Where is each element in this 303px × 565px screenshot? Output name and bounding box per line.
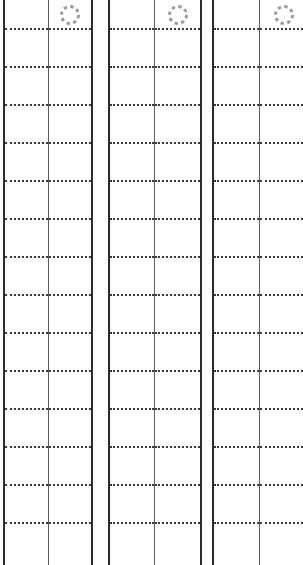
rule-line — [110, 104, 154, 106]
rule-line — [155, 256, 200, 258]
rule-line — [260, 142, 303, 144]
rule-line — [5, 332, 48, 334]
column-group-1-left-cell[interactable] — [5, 0, 49, 565]
rule-line — [49, 294, 91, 296]
rule-line — [49, 180, 91, 182]
rule-line — [214, 408, 259, 410]
rule-line — [155, 332, 200, 334]
rule-line — [260, 522, 303, 524]
rule-line — [49, 522, 91, 524]
rule-layer — [155, 0, 200, 565]
rule-line — [49, 332, 91, 334]
rule-line — [260, 408, 303, 410]
rule-line — [49, 408, 91, 410]
rule-line — [260, 256, 303, 258]
rule-line — [5, 180, 48, 182]
rule-line — [155, 180, 200, 182]
rule-layer — [214, 0, 259, 565]
rule-line — [214, 256, 259, 258]
rule-line — [49, 256, 91, 258]
column-group-3-left-cell[interactable] — [214, 0, 260, 565]
rule-line — [155, 370, 200, 372]
rule-line — [110, 256, 154, 258]
rule-line — [155, 66, 200, 68]
column-group-1 — [3, 0, 93, 565]
rule-line — [214, 294, 259, 296]
rule-line — [49, 66, 91, 68]
rule-line — [155, 28, 200, 30]
rule-line — [5, 218, 48, 220]
rule-line — [155, 142, 200, 144]
rule-line — [155, 522, 200, 524]
rule-line — [110, 294, 154, 296]
rule-line — [214, 218, 259, 220]
rule-line — [5, 522, 48, 524]
rule-line — [49, 28, 91, 30]
column-group-2-left-cell[interactable] — [110, 0, 155, 565]
rule-layer — [5, 0, 48, 565]
rule-line — [260, 332, 303, 334]
rule-line — [110, 142, 154, 144]
dashed-circle-icon — [58, 3, 82, 27]
rule-line — [110, 218, 154, 220]
column-group-3 — [212, 0, 303, 565]
rule-line — [155, 294, 200, 296]
column-group-2 — [108, 0, 202, 565]
rule-line — [155, 104, 200, 106]
rule-line — [214, 484, 259, 486]
rule-line — [110, 332, 154, 334]
rule-layer — [260, 0, 303, 565]
rule-layer — [49, 0, 91, 565]
rule-line — [110, 66, 154, 68]
rule-line — [5, 142, 48, 144]
rule-line — [260, 446, 303, 448]
rule-line — [214, 142, 259, 144]
dashed-circle-icon — [272, 3, 296, 27]
rule-line — [5, 370, 48, 372]
rule-line — [214, 28, 259, 30]
rule-line — [49, 370, 91, 372]
rule-line — [110, 180, 154, 182]
rule-line — [49, 218, 91, 220]
rule-line — [110, 408, 154, 410]
rule-line — [49, 104, 91, 106]
column-group-3-right-cell[interactable] — [260, 0, 303, 565]
rule-line — [260, 294, 303, 296]
rule-line — [155, 218, 200, 220]
form-sheet — [0, 0, 303, 565]
rule-line — [5, 294, 48, 296]
rule-line — [155, 408, 200, 410]
rule-line — [260, 28, 303, 30]
rule-line — [49, 446, 91, 448]
rule-line — [5, 484, 48, 486]
rule-line — [214, 446, 259, 448]
rule-line — [5, 104, 48, 106]
rule-line — [260, 66, 303, 68]
column-group-2-right-cell[interactable] — [155, 0, 200, 565]
rule-line — [49, 142, 91, 144]
rule-line — [5, 408, 48, 410]
rule-line — [260, 370, 303, 372]
rule-line — [110, 446, 154, 448]
rule-line — [260, 484, 303, 486]
rule-line — [260, 218, 303, 220]
rule-line — [110, 28, 154, 30]
rule-line — [214, 180, 259, 182]
rule-line — [214, 332, 259, 334]
rule-line — [214, 522, 259, 524]
rule-line — [214, 370, 259, 372]
rule-line — [5, 66, 48, 68]
rule-layer — [110, 0, 154, 565]
rule-line — [155, 446, 200, 448]
rule-line — [49, 484, 91, 486]
rule-line — [260, 180, 303, 182]
rule-line — [110, 522, 154, 524]
rule-line — [110, 370, 154, 372]
rule-line — [155, 484, 200, 486]
column-group-1-right-cell[interactable] — [49, 0, 91, 565]
rule-line — [110, 484, 154, 486]
rule-line — [214, 104, 259, 106]
rule-line — [5, 446, 48, 448]
rule-line — [5, 28, 48, 30]
rule-line — [5, 256, 48, 258]
